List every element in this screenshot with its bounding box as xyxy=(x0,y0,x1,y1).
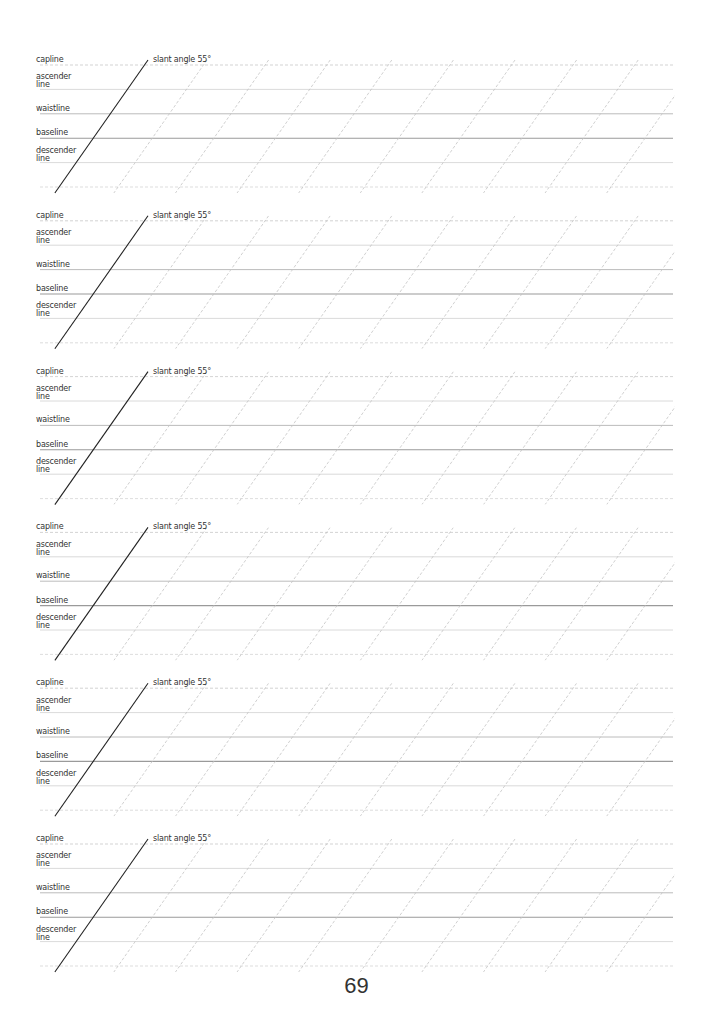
guideline-grid xyxy=(0,0,713,1036)
slant-guide-dashed xyxy=(607,839,700,972)
label-descender-line-2: line xyxy=(36,934,50,942)
label-baseline: baseline xyxy=(36,908,68,916)
slant-guide-dashed xyxy=(483,839,576,972)
label-waistline: waistline xyxy=(36,884,70,892)
slant-guide-dashed xyxy=(114,839,207,972)
page-number: 69 xyxy=(0,973,713,999)
slant-guide-dashed xyxy=(299,839,392,972)
slant-guide-dashed xyxy=(237,839,330,972)
slant-guide-dashed xyxy=(545,839,638,972)
label-slant-angle: slant angle 55° xyxy=(153,835,211,843)
slant-guide-dashed xyxy=(175,839,268,972)
label-capline: capline xyxy=(36,835,63,843)
label-ascender-line-2: line xyxy=(36,860,50,868)
slant-guide-dashed xyxy=(360,839,453,972)
slant-guide-dashed xyxy=(422,839,515,972)
